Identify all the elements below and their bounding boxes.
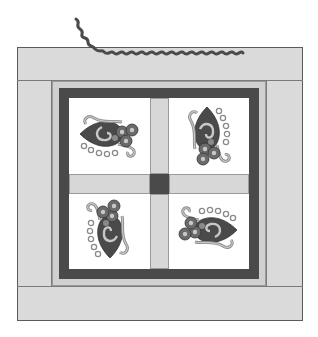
motif-layer	[0, 0, 318, 337]
heart-flower-motif-bottom-right	[179, 207, 237, 247]
heart-flower-motif-top-left	[80, 117, 138, 157]
rickrack-trim	[76, 19, 243, 54]
heart-flower-motif-bottom-left	[87, 200, 127, 258]
heart-flower-motif-top-right	[190, 107, 230, 165]
